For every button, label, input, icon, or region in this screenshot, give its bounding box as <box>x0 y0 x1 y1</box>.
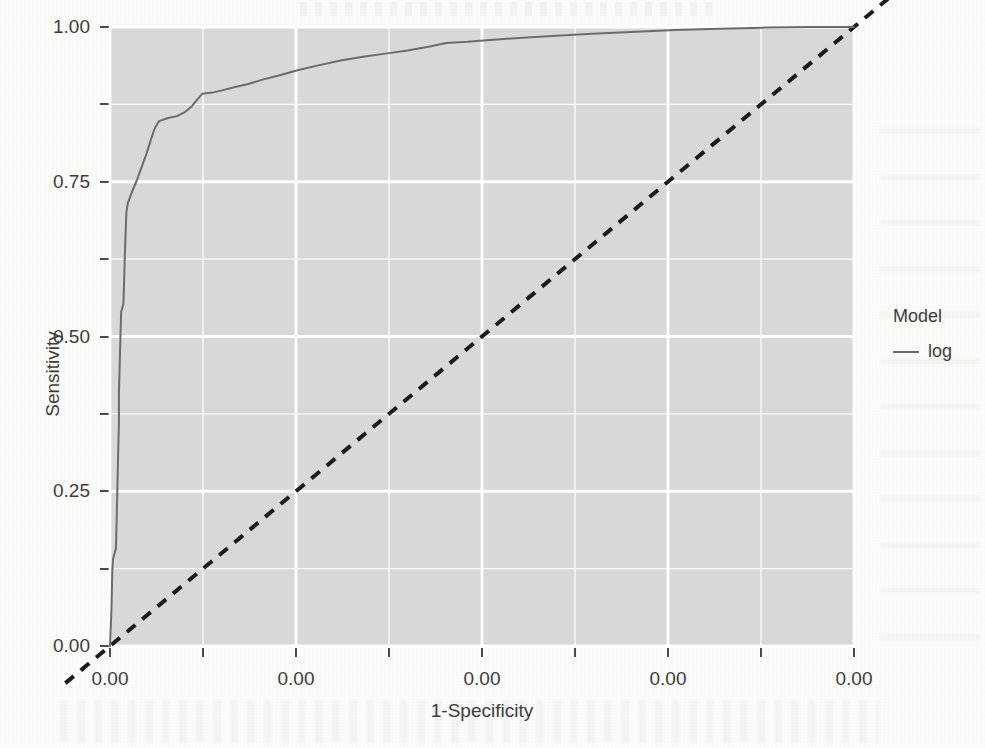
x-tick-mark-minor <box>760 648 762 657</box>
legend-entry-label: log <box>928 341 952 362</box>
y-tick-mark-major <box>100 181 109 183</box>
y-tick-mark-major <box>100 336 109 338</box>
y-tick-label: 1.00 <box>32 16 90 38</box>
x-tick-label: 0.00 <box>278 668 315 690</box>
x-tick-mark-major <box>853 648 855 657</box>
x-tick-label: 0.00 <box>464 668 501 690</box>
chart-page: Sensitivity 0.000.250.500.751.00 0.000.0… <box>0 0 985 748</box>
legend-entries: log <box>893 341 985 362</box>
x-tick-mark-minor <box>388 648 390 657</box>
y-tick-mark-minor <box>100 103 109 105</box>
roc-plot-svg <box>110 27 854 646</box>
x-tick-mark-major <box>667 648 669 657</box>
y-tick-mark-major <box>100 645 109 647</box>
legend-entry-log[interactable]: log <box>893 341 985 362</box>
legend-line-swatch-icon <box>893 351 919 353</box>
y-tick-mark-major <box>100 26 109 28</box>
plot-panel <box>110 27 854 646</box>
x-tick-mark-major <box>481 648 483 657</box>
x-tick-mark-minor <box>202 648 204 657</box>
y-tick-mark-major <box>100 490 109 492</box>
y-tick-mark-minor <box>100 413 109 415</box>
y-tick-label: 0.75 <box>32 171 90 193</box>
x-axis-title: 1-Specificity <box>110 700 854 722</box>
x-tick-label: 0.00 <box>92 668 129 690</box>
y-tick-label: 0.00 <box>32 635 90 657</box>
y-tick-mark-minor <box>100 258 109 260</box>
legend: Model log <box>893 306 985 362</box>
x-tick-label: 0.00 <box>836 668 873 690</box>
y-tick-label: 0.50 <box>32 326 90 348</box>
scan-bleed-right <box>880 120 980 640</box>
y-tick-label: 0.25 <box>32 480 90 502</box>
y-tick-mark-minor <box>100 568 109 570</box>
x-tick-mark-minor <box>574 648 576 657</box>
scan-bleed-top <box>300 2 720 16</box>
x-tick-label: 0.00 <box>650 668 687 690</box>
x-tick-mark-major <box>295 648 297 657</box>
x-tick-mark-major <box>109 648 111 657</box>
legend-title: Model <box>893 306 985 327</box>
